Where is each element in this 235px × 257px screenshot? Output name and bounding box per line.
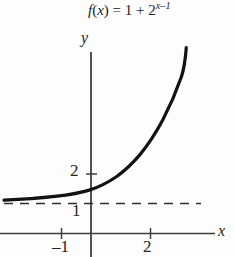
function-title-equals-base: = 1 + 2 xyxy=(109,2,156,18)
x-tick-label-2: 2 xyxy=(143,238,152,255)
y-tick-label-2: 2 xyxy=(70,162,79,179)
exponential-curve xyxy=(4,48,186,201)
y-tick-label-1: 1 xyxy=(72,202,81,219)
exponential-function-figure: f(x) = 1 + 2x–1 y x 2 1 –1 2 xyxy=(0,0,235,257)
function-title-exponent: x–1 xyxy=(156,0,171,11)
y-axis-label: y xyxy=(81,30,88,46)
function-title-variable: x xyxy=(97,2,104,18)
x-tick-label-neg1: –1 xyxy=(52,238,69,255)
graph-canvas xyxy=(0,0,235,257)
x-axis-label: x xyxy=(218,223,225,239)
function-title: f(x) = 1 + 2x–1 xyxy=(88,3,170,18)
